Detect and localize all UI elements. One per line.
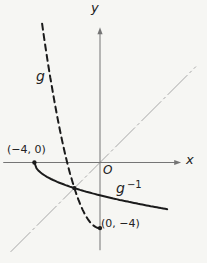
y-axis-arrow-icon <box>97 27 102 34</box>
point-label-0-neg4: (0, −4) <box>101 218 140 230</box>
g-curve <box>42 24 100 228</box>
point-dot-0 <box>32 160 36 164</box>
g-inverse-curve-label: g−1 <box>116 181 142 196</box>
g-inverse-exponent: −1 <box>127 179 142 190</box>
y-axis-label: y <box>91 1 99 15</box>
x-axis-arrow-icon <box>174 160 181 165</box>
figure: y x O g g−1 (−4, 0) (0, −4) <box>0 0 207 263</box>
point-label-neg4-0: (−4, 0) <box>7 144 46 156</box>
g-curve-label: g <box>36 69 45 84</box>
g-inverse-curve <box>34 163 167 210</box>
x-axis-label: x <box>186 153 194 167</box>
g-inverse-base: g <box>116 180 125 196</box>
origin-label: O <box>103 164 112 177</box>
point-dot-1 <box>72 186 76 190</box>
